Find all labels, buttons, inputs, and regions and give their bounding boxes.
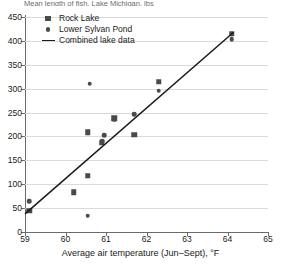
y-axis-tick-label: 400 (8, 37, 22, 46)
legend-item: Lower Sylvan Pond (37, 24, 135, 35)
y-axis-tick-label: 300 (8, 84, 22, 93)
chart-container: Mean length of fish, Lake Michigan, lbs … (0, 0, 281, 265)
x-axis-tick-label: 62 (142, 235, 151, 244)
y-axis-tick-label: 350 (8, 61, 22, 70)
x-axis-tick-label: 65 (263, 235, 272, 244)
y-axis-tick-label: 450 (8, 13, 22, 22)
trendline (25, 17, 268, 232)
chart-title-clipped: Mean length of fish, Lake Michigan, lbs (24, 0, 224, 6)
legend-item-label: Lower Sylvan Pond (59, 25, 132, 34)
x-axis-tick-label: 60 (61, 235, 70, 244)
x-axis-tick-label: 61 (101, 235, 110, 244)
legend-square-icon (37, 16, 59, 22)
legend-line-icon (37, 40, 59, 41)
chart-legend: Rock LakeLower Sylvan PondCombined lake … (37, 13, 135, 46)
y-axis-tick-label: 200 (8, 132, 22, 141)
legend-item-label: Combined lake data (59, 36, 135, 45)
x-axis-tick-label: 64 (223, 235, 232, 244)
x-axis-title: Average air temperature (Jun–Sept), °F (0, 249, 281, 258)
legend-circle-icon (37, 27, 59, 32)
y-axis-tick-label: 250 (8, 108, 22, 117)
legend-item-label: Rock Lake (59, 14, 99, 23)
y-axis-tick-label: 150 (8, 156, 22, 165)
x-axis-tick-label: 59 (20, 235, 29, 244)
y-axis-tick-label: 50 (13, 204, 22, 213)
y-axis-tick-label: 100 (8, 180, 22, 189)
legend-item: Rock Lake (37, 13, 135, 24)
y-axis-tick-labels: 050100150200250300350400450 (0, 0, 22, 265)
x-axis-tick-label: 63 (182, 235, 191, 244)
legend-item: Combined lake data (37, 35, 135, 46)
